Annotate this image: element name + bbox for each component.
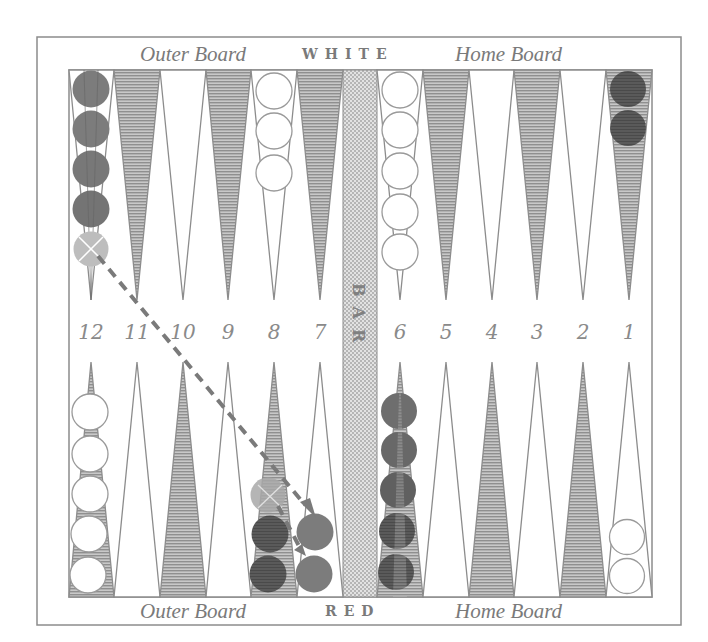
white-checker: [72, 476, 108, 512]
point-number-10: 10: [163, 320, 203, 344]
bar-label: BAR: [350, 283, 370, 383]
point-number-11: 11: [117, 320, 157, 344]
checkers-point-8-top: [256, 73, 292, 191]
red-checker: [296, 556, 333, 593]
red-checker: [610, 110, 646, 146]
white-checker: [610, 520, 645, 555]
point-number-4: 4: [472, 320, 512, 344]
point-number-3: 3: [517, 320, 557, 344]
backgammon-diagram: Outer Board WHITE Home Board Outer Board…: [0, 0, 708, 642]
white-checker: [71, 516, 107, 552]
point-number-6: 6: [380, 320, 420, 344]
red-checker: [73, 151, 110, 188]
point-number-12: 12: [71, 320, 111, 344]
point-number-2: 2: [563, 320, 603, 344]
white-checker: [382, 112, 418, 148]
white-checker: [72, 394, 108, 430]
white-checker: [610, 559, 645, 594]
red-checker: [73, 191, 110, 228]
bottom-left-label: Outer Board: [140, 599, 246, 624]
white-checker: [256, 155, 292, 191]
white-checker: [382, 194, 418, 230]
top-right-label: Home Board: [455, 42, 562, 67]
white-checker: [382, 72, 418, 108]
top-left-label: Outer Board: [140, 42, 246, 67]
bottom-right-label: Home Board: [455, 599, 562, 624]
red-checker: [73, 111, 110, 148]
red-checker: [73, 71, 110, 108]
top-side-label: WHITE: [302, 46, 394, 62]
checkers-point-12-bottom: [70, 394, 108, 593]
red-checker: [610, 71, 646, 107]
point-number-7: 7: [300, 320, 340, 344]
white-checker: [256, 113, 292, 149]
white-checker: [256, 73, 292, 109]
red-checker: [250, 556, 287, 593]
point-number-1: 1: [609, 320, 649, 344]
red-checker: [252, 516, 289, 553]
bottom-side-label: RED: [325, 603, 380, 619]
white-checker: [70, 557, 106, 593]
white-checker: [382, 234, 418, 270]
white-checker: [72, 436, 108, 472]
point-number-8: 8: [254, 320, 294, 344]
checkers-point-8-bottom: [250, 478, 289, 593]
checkers-point-6-top: [382, 72, 418, 270]
point-number-5: 5: [426, 320, 466, 344]
point-number-9: 9: [208, 320, 248, 344]
white-checker: [382, 153, 418, 189]
